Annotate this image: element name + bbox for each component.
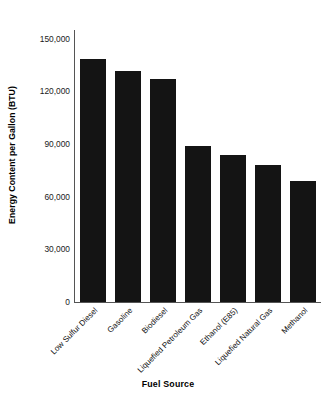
bar (80, 59, 106, 302)
y-tick-label: 30,000 (4, 244, 70, 254)
bar (255, 165, 281, 302)
y-tick-label: 90,000 (4, 139, 70, 149)
bar (115, 71, 141, 302)
bar (185, 146, 211, 302)
bar (220, 155, 246, 302)
y-tick-label: 120,000 (4, 86, 70, 96)
y-tick-label: 150,000 (4, 34, 70, 44)
y-tick-label: 60,000 (4, 192, 70, 202)
bar-series (75, 30, 321, 302)
bar (290, 181, 316, 302)
bar-chart-figure: Energy Content per Gallon (BTU) 030,0006… (0, 0, 336, 407)
bar (150, 79, 176, 302)
x-axis-tick-labels: Low Sulfur DieselGasolineBiodieselLiquef… (0, 302, 336, 377)
x-axis-title: Fuel Source (0, 379, 336, 389)
